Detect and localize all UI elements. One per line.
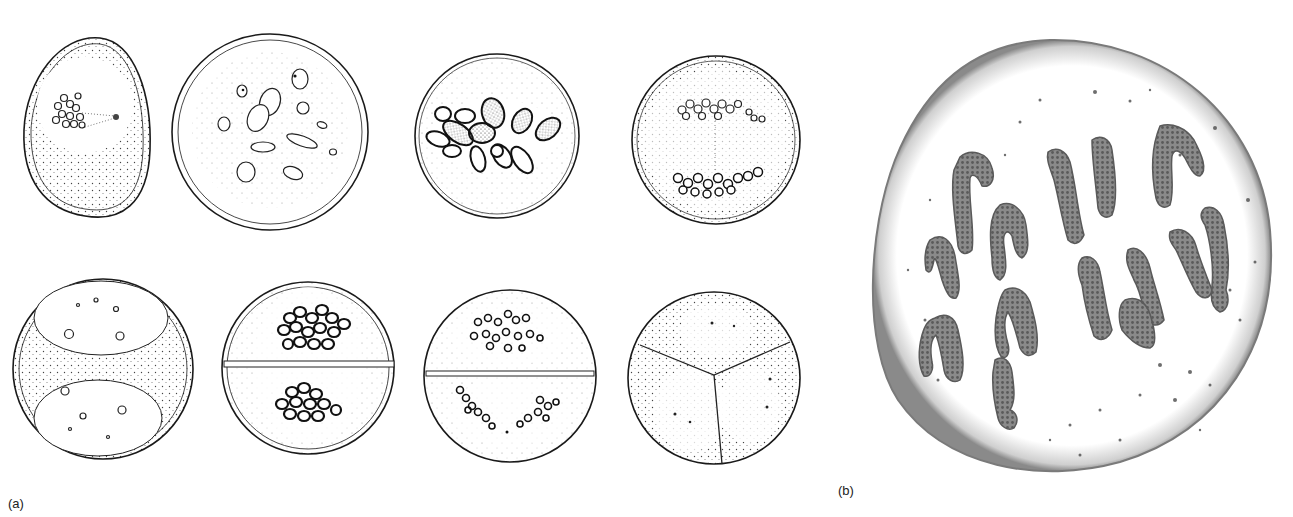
cell-a8 xyxy=(628,292,800,464)
cell-a1 xyxy=(24,38,150,217)
figure-canvas xyxy=(0,0,1293,517)
panel-label-a: (a) xyxy=(8,496,24,511)
cell-a4 xyxy=(632,56,800,224)
cell-a2 xyxy=(172,34,368,230)
cell-a6 xyxy=(222,282,394,454)
panel-label-b: (b) xyxy=(838,483,854,498)
cell-a7 xyxy=(424,290,596,462)
cell-a5 xyxy=(13,279,193,459)
cell-a3 xyxy=(415,54,579,218)
cell-b xyxy=(873,40,1271,471)
